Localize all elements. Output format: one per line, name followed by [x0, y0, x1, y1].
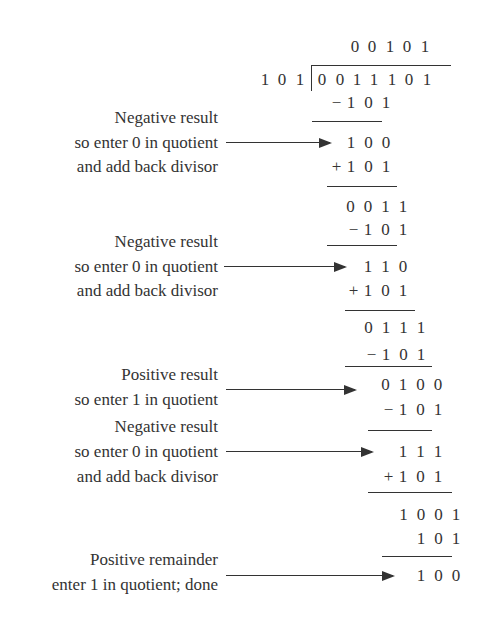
step-digit: 0: [415, 467, 427, 487]
step-digit: 1: [345, 157, 357, 177]
step-digit: 1: [415, 345, 427, 365]
annotation-line: so enter 0 in quotient: [74, 133, 218, 153]
operator-sign: −: [348, 220, 360, 240]
step-digit: 1: [432, 467, 444, 487]
step-digit: 0: [433, 505, 445, 525]
operator-sign: −: [331, 93, 343, 113]
step-digit: 1: [362, 257, 374, 277]
step-digit: 0: [380, 375, 392, 395]
rule: [327, 186, 397, 187]
step-digit: 1: [432, 442, 444, 462]
annotation-line: so enter 1 in quotient: [74, 390, 218, 410]
step-digit: 0: [363, 157, 375, 177]
step-digit: 0: [415, 505, 427, 525]
step-digit: 0: [397, 257, 409, 277]
step-digit: 0: [433, 566, 445, 586]
step-digit: 1: [380, 318, 392, 338]
rule: [327, 245, 397, 246]
quotient-digit: 0: [401, 37, 413, 57]
step-digit: 0: [432, 375, 444, 395]
rule: [312, 121, 382, 122]
arrow-icon: [226, 142, 330, 143]
annotation-line: Negative result: [115, 108, 218, 128]
arrow-icon: [224, 266, 345, 267]
step-digit: 0: [398, 345, 410, 365]
dividend: 0 0 1 1 1 0 1: [0, 70, 480, 90]
step-digit: 1: [415, 566, 427, 586]
step-digit: 0: [380, 133, 392, 153]
step-digit: 1: [398, 318, 410, 338]
step-digit: 1: [450, 505, 462, 525]
arrow-icon: [226, 451, 372, 452]
rule: [345, 310, 415, 311]
division-bar: [311, 65, 451, 66]
step-digit: 1: [380, 157, 392, 177]
step-digit: 1: [362, 281, 374, 301]
step-digit: 0: [450, 566, 462, 586]
quotient: 0 0 1 0 1: [0, 37, 480, 57]
step-digit: 0: [433, 529, 445, 549]
operator-sign: +: [383, 467, 395, 487]
step-digit: 1: [415, 529, 427, 549]
annotation-line: Negative result: [115, 232, 218, 252]
step-digit: 1: [397, 400, 409, 420]
step-digit: 1: [397, 467, 409, 487]
dividend-digit: 1: [351, 70, 363, 90]
step-digit: 0: [363, 133, 375, 153]
annotation-line: Positive remainder: [90, 550, 218, 570]
step-digit: 0: [415, 375, 427, 395]
step-digit: 1: [380, 197, 392, 217]
quotient-digit: 0: [349, 37, 361, 57]
arrow-icon: [226, 575, 393, 576]
step-digit: 0: [345, 197, 357, 217]
step-digit: 0: [380, 220, 392, 240]
rule: [368, 492, 452, 493]
quotient-digit: 1: [419, 37, 431, 57]
step-digit: 1: [397, 281, 409, 301]
dividend-digit: 1: [421, 70, 433, 90]
step-digit: 1: [397, 442, 409, 462]
step-digit: 1: [415, 442, 427, 462]
step-digit: 1: [397, 197, 409, 217]
step-digit: 1: [415, 318, 427, 338]
quotient-digit: 0: [366, 37, 378, 57]
annotation-line: and add back divisor: [77, 157, 218, 177]
step-digit: 1: [362, 220, 374, 240]
operator-sign: +: [331, 157, 343, 177]
annotation-line: Negative result: [115, 417, 218, 437]
dividend-digit: 1: [368, 70, 380, 90]
step-digit: 1: [380, 93, 392, 113]
step-digit: 1: [432, 400, 444, 420]
step-digit: 1: [398, 505, 410, 525]
step-digit: 0: [363, 318, 375, 338]
step-digit: 1: [397, 375, 409, 395]
operator-sign: +: [348, 281, 360, 301]
rule: [345, 366, 432, 367]
dividend-digit: 0: [403, 70, 415, 90]
annotation-line: so enter 0 in quotient: [74, 257, 218, 277]
step-digit: 0: [380, 281, 392, 301]
rule: [368, 430, 432, 431]
annotation-line: Positive result: [121, 365, 218, 385]
step-digit: 0: [415, 400, 427, 420]
dividend-digit: 1: [386, 70, 398, 90]
step-digit: 1: [450, 529, 462, 549]
dividend-digit: 0: [316, 70, 328, 90]
step-digit: 0: [363, 93, 375, 113]
annotation-line: and add back divisor: [77, 281, 218, 301]
operator-sign: −: [383, 400, 395, 420]
step-digit: 1: [397, 220, 409, 240]
annotation-line: and add back divisor: [77, 467, 218, 487]
step-digit: 0: [362, 197, 374, 217]
step-digit: 1: [345, 93, 357, 113]
step-digit: 1: [345, 133, 357, 153]
annotation-line: so enter 0 in quotient: [74, 442, 218, 462]
annotation-line: enter 1 in quotient; done: [52, 575, 218, 595]
step-digit: 1: [380, 345, 392, 365]
quotient-digit: 1: [384, 37, 396, 57]
step-digit: 1: [380, 257, 392, 277]
operator-sign: −: [366, 345, 378, 365]
arrow-icon: [226, 389, 355, 390]
dividend-digit: 0: [334, 70, 346, 90]
rule: [382, 556, 452, 557]
